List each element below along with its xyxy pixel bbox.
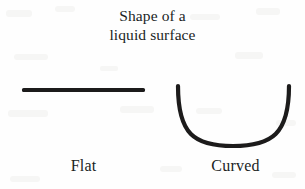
label-curved: Curved [173,156,298,176]
figure-title-line-2: liquid surface [0,25,305,44]
figure-title-line-1: Shape of a [0,6,305,25]
figure-title: Shape of a liquid surface [0,6,305,44]
liquid-surface-figure: Shape of a liquid surface Flat Curved [0,0,305,189]
label-flat: Flat [22,156,145,176]
flat-surface-line [22,88,145,92]
curved-surface-arc [172,82,298,154]
